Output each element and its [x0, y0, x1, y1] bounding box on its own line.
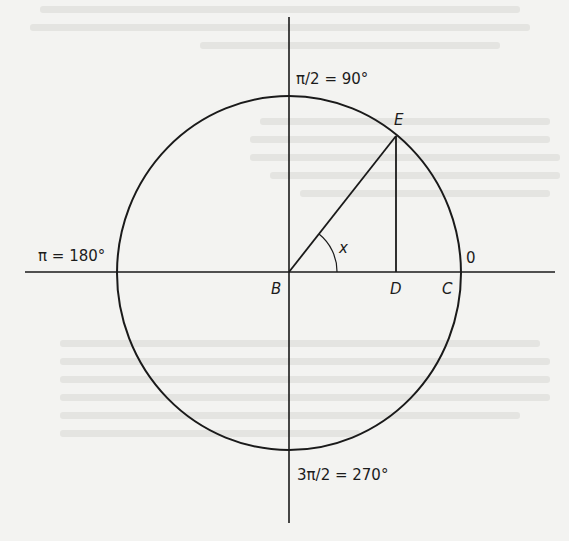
label-90-degrees: π/2 = 90°	[296, 70, 368, 88]
point-label-D: D	[390, 280, 402, 298]
label-180-degrees: π = 180°	[38, 247, 105, 265]
page: π/2 = 90° π = 180° 3π/2 = 270° 0 B D C E…	[0, 0, 569, 541]
point-label-E: E	[394, 111, 404, 129]
label-0-degrees: 0	[466, 249, 476, 267]
point-label-B: B	[271, 280, 281, 298]
unit-circle-diagram: π/2 = 90° π = 180° 3π/2 = 270° 0 B D C E…	[0, 0, 569, 541]
angle-label-x: x	[338, 239, 348, 257]
angle-arc	[319, 234, 337, 272]
label-270-degrees: 3π/2 = 270°	[297, 466, 388, 484]
point-label-C: C	[442, 280, 453, 298]
